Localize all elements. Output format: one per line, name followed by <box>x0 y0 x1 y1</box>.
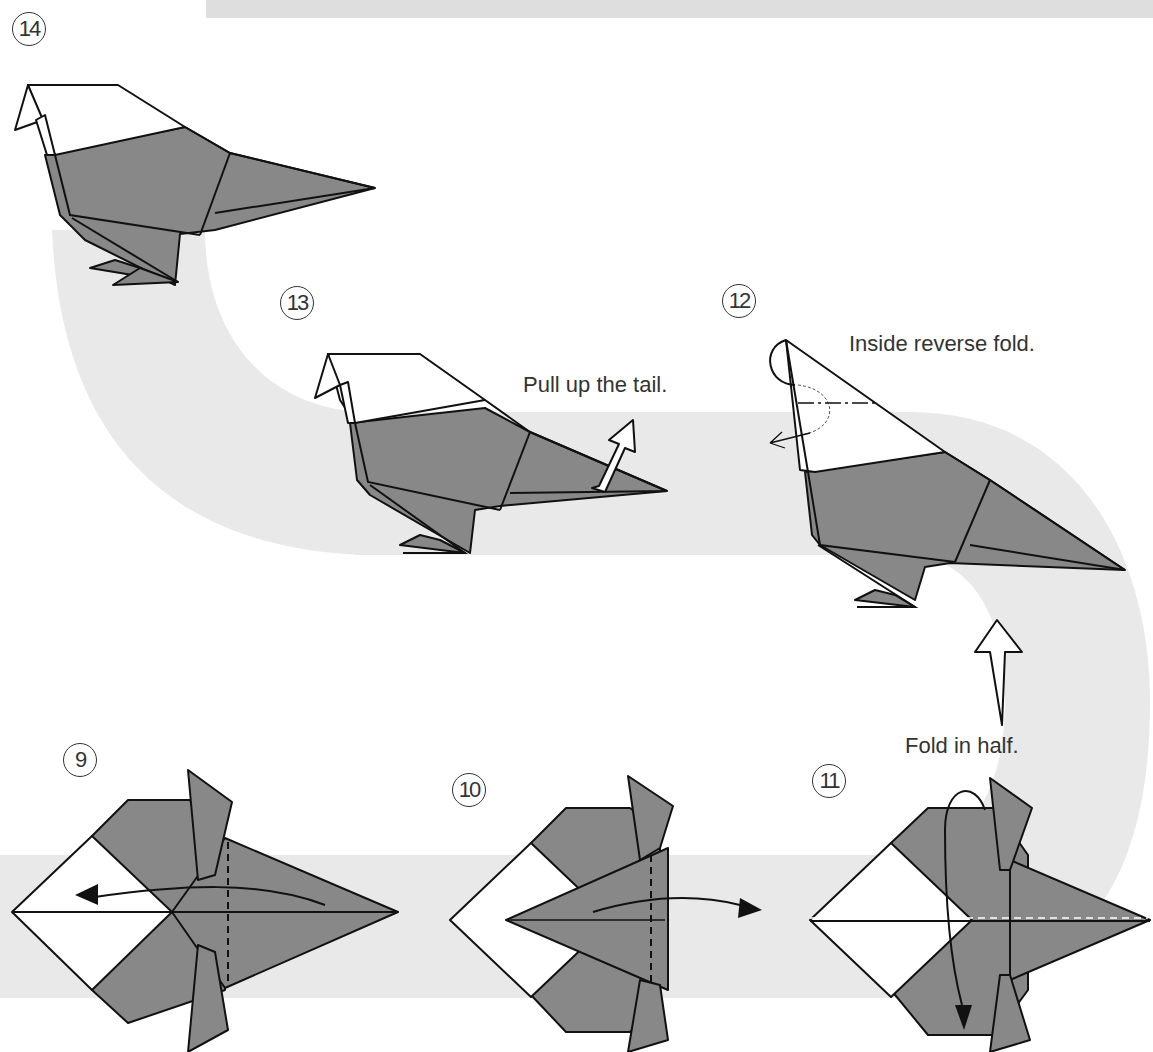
bird-step-12 <box>770 340 1125 607</box>
diagram-canvas <box>0 0 1153 1052</box>
caption-step-12: Inside reverse fold. <box>849 331 1035 357</box>
diagram-step-9 <box>12 770 398 1052</box>
caption-step-13: Pull up the tail. <box>523 372 667 398</box>
step-number-11: 11 <box>812 764 846 798</box>
step-number-14: 14 <box>12 12 46 46</box>
top-strip <box>206 0 1153 18</box>
step-number-9: 9 <box>63 743 97 777</box>
step-number-12: 12 <box>722 284 756 318</box>
step-number-13: 13 <box>280 286 314 320</box>
step-number-10: 10 <box>452 773 486 807</box>
caption-step-11: Fold in half. <box>905 733 1019 759</box>
